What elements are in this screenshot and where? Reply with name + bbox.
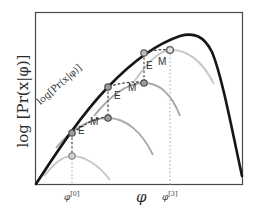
x-tick-phi-0: φ[0] (64, 190, 80, 202)
x-tick-phi-3-sup: [3] (168, 190, 177, 198)
plot-canvas (0, 0, 256, 212)
marker-iterate-2 (105, 84, 111, 90)
log-likelihood-curve (36, 35, 242, 184)
marker-bound-0-peak (69, 153, 75, 159)
marker-bound-2-peak (141, 80, 147, 86)
e-step-label-3: E (146, 60, 153, 71)
m-step-label-1: M (90, 116, 98, 127)
marker-bound-1-peak (105, 115, 111, 121)
m-step-label-2: M (128, 82, 136, 93)
m-step-label-3: M (158, 56, 166, 67)
marker-iterate-1 (69, 130, 75, 136)
em-algorithm-figure: log [Pr(x|φ)] φ φ[0] φ[3] log[Pr(x|φ)] E… (0, 0, 256, 212)
x-tick-phi-0-sup: [0] (70, 190, 79, 198)
marker-iterate-3 (141, 50, 147, 56)
e-step-label-2: E (114, 90, 121, 101)
y-axis-label: log [Pr(x|φ)] (14, 31, 32, 171)
x-tick-phi-3: φ[3] (162, 190, 178, 202)
e-step-label-1: E (78, 125, 85, 136)
bound-curve-0 (44, 156, 110, 180)
x-axis-label: φ (136, 188, 147, 206)
marker-bound-3-peak (167, 47, 174, 54)
plot-frame (36, 13, 243, 185)
